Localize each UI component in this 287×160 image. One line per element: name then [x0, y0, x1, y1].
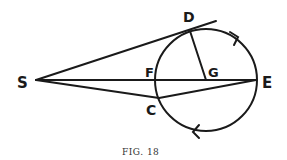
tangent-line-SD	[36, 21, 216, 80]
line-CE	[159, 80, 256, 98]
label-F: F	[145, 65, 154, 80]
figure-caption: FIG. 18	[122, 147, 159, 157]
arrow-bottom-left-icon	[193, 125, 199, 138]
radius-DG	[190, 31, 206, 80]
line-SC	[36, 80, 159, 98]
label-D: D	[183, 9, 195, 25]
label-E: E	[262, 74, 272, 92]
label-S: S	[17, 74, 28, 92]
label-G: G	[208, 65, 219, 80]
figure-18-diagram: S D F G E C FIG. 18	[0, 0, 287, 160]
label-C: C	[146, 102, 156, 118]
